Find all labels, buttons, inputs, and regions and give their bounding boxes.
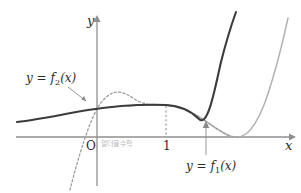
x-tick-label-1: 1 bbox=[163, 140, 171, 152]
y-axis-label: y bbox=[87, 14, 94, 27]
leader-line-f2 bbox=[68, 87, 86, 101]
origin-label: O bbox=[86, 140, 96, 152]
curve-main bbox=[17, 12, 236, 122]
curve-label-f2: y = f2(x) bbox=[26, 72, 76, 87]
f2-label-arg: (x) bbox=[60, 71, 76, 85]
y-axis bbox=[93, 15, 100, 186]
f2-label-eq: = bbox=[37, 71, 47, 85]
curve-f1 bbox=[128, 18, 288, 137]
f1-label-arg: (x) bbox=[220, 159, 236, 173]
x-axis bbox=[16, 133, 296, 140]
f1-label-y: y bbox=[186, 159, 193, 173]
curve-label-f1: y = f1(x) bbox=[186, 160, 236, 175]
f2-label-y: y bbox=[26, 71, 33, 85]
graph-canvas bbox=[0, 0, 301, 193]
y-axis-arrow bbox=[93, 15, 100, 22]
math-graph-figure: y x O 1 y = f2(x) y = f1(x) 알더블수학 bbox=[0, 0, 301, 193]
watermark-text: 알더블수학 bbox=[101, 141, 132, 148]
arrow-to-f1 bbox=[203, 121, 210, 155]
f1-label-eq: = bbox=[197, 159, 207, 173]
x-axis-label: x bbox=[285, 139, 292, 152]
